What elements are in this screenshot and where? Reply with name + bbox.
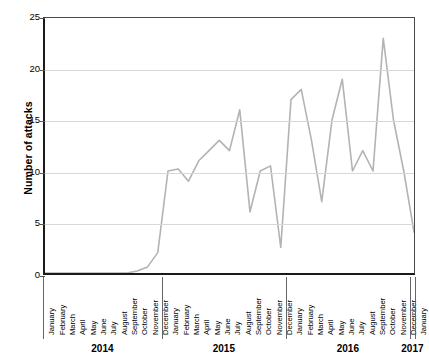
y-tick-mark-10 [40, 173, 45, 174]
y-tick-label-5: 5 [18, 218, 40, 228]
data-line-series [45, 18, 414, 273]
gridline-15 [45, 121, 414, 122]
y-tick-label-20: 20 [18, 64, 40, 74]
year-separator-2017 [410, 277, 411, 339]
year-label-2017: 2017 [401, 343, 423, 354]
y-tick-mark-5 [40, 224, 45, 225]
gridline-20 [45, 70, 414, 71]
y-tick-mark-20 [40, 70, 45, 71]
year-separator-end [415, 277, 416, 339]
y-tick-mark-15 [40, 121, 45, 122]
y-tick-label-10: 10 [18, 167, 40, 177]
y-tick-mark-25 [40, 18, 45, 19]
year-separator-2016 [286, 277, 287, 339]
x-axis-year-labels: 2014201520162017 [43, 277, 415, 362]
y-tick-label-15: 15 [18, 115, 40, 125]
year-label-2015: 2015 [213, 343, 235, 354]
year-label-2014: 2014 [91, 343, 113, 354]
y-tick-label-25: 25 [18, 12, 40, 22]
year-separator-2015 [162, 277, 163, 339]
gridline-5 [45, 224, 414, 225]
attacks-over-time-line-chart: Number of attacks 0510152025 JanuaryFebr… [0, 0, 429, 362]
year-label-2016: 2016 [337, 343, 359, 354]
year-separator-2014 [43, 277, 44, 339]
gridline-10 [45, 173, 414, 174]
y-tick-label-0: 0 [18, 270, 40, 280]
y-axis-tick-labels: 0510152025 [0, 0, 40, 362]
plot-area [43, 17, 415, 275]
x-tick-label-36: January [420, 308, 428, 335]
